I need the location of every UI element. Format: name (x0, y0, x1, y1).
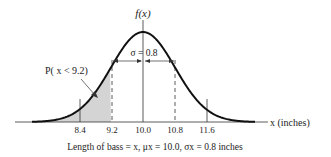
tick-11.6: 11.6 (199, 125, 215, 135)
sigma-label: σ = 0.8 (130, 48, 157, 58)
arrowhead-icon (137, 59, 142, 63)
arrowhead-icon (145, 59, 150, 63)
tick-10.0: 10.0 (135, 125, 151, 135)
normal-distribution-figure: f(x) σ = 0.8 P( x < 9.2) x (inches) 8.4 … (0, 0, 331, 157)
probability-label: P( x < 9.2) (45, 65, 88, 77)
tick-10.8: 10.8 (167, 125, 183, 135)
probability-pointer (81, 79, 95, 95)
normal-curve (32, 32, 255, 122)
caption: Length of bass = x, μx = 10.0, σx = 0.8 … (67, 142, 243, 152)
x-axis-label: x (inches) (270, 117, 310, 129)
y-axis-label: f(x) (135, 7, 151, 20)
tick-9.2: 9.2 (106, 125, 117, 135)
tick-8.4: 8.4 (74, 125, 86, 135)
